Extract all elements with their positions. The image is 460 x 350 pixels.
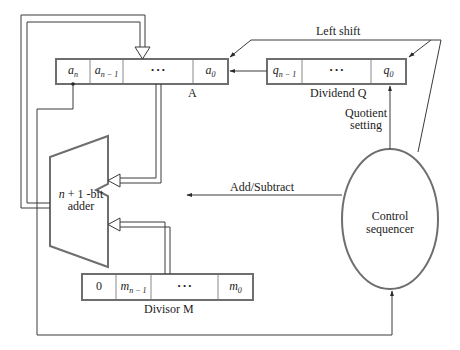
quotient-setting-label-line2: setting xyxy=(344,119,388,131)
a-to-adder-bus xyxy=(120,84,161,183)
cell-a-ellipsis: • • • xyxy=(123,66,193,75)
bus-arrow-into-adder-top xyxy=(108,174,120,187)
cell-sub: n − 1 xyxy=(129,286,146,295)
cell-var: m xyxy=(229,279,238,293)
cell-a-n: an xyxy=(56,64,90,79)
cell-var: • • • xyxy=(330,65,344,75)
cell-sub: 0 xyxy=(238,286,242,295)
cell-q-0: q0 xyxy=(371,64,406,79)
cell-sub: n − 1 xyxy=(279,70,296,79)
left-shift-arrow-q xyxy=(409,40,431,57)
control-label-line1: Control xyxy=(352,210,428,222)
register-m-label: Divisor M xyxy=(144,303,194,315)
cell-var: m xyxy=(120,279,129,293)
left-shift-label: Left shift xyxy=(316,25,360,37)
add-subtract-label: Add/Subtract xyxy=(230,181,294,193)
cell-m-n-1: mn − 1 xyxy=(116,280,151,295)
cell-m-0: m0 xyxy=(218,280,253,295)
cell-q-n-1: qn − 1 xyxy=(267,64,302,79)
cell-a-0: a0 xyxy=(193,64,228,79)
register-q-label: Dividend Q xyxy=(310,87,366,99)
bus-arrow-into-a xyxy=(135,47,150,59)
cell-var: 0 xyxy=(96,279,102,293)
cell-m-ellipsis: • • • xyxy=(151,282,218,291)
m-to-adder-bus xyxy=(120,222,170,274)
cell-sub: n − 1 xyxy=(101,70,118,79)
cell-sub: 0 xyxy=(390,70,394,79)
cell-sub: 0 xyxy=(212,70,216,79)
cell-var: • • • xyxy=(151,65,165,75)
register-a-label: A xyxy=(188,87,197,99)
diagram-canvas xyxy=(0,0,460,350)
cell-q-ellipsis: • • • xyxy=(302,66,371,75)
cell-m-zero: 0 xyxy=(82,280,116,292)
bus-arrow-into-adder-bottom xyxy=(108,218,120,231)
cell-a-n-1: an − 1 xyxy=(90,64,123,79)
left-shift-arrow-a xyxy=(230,40,251,57)
adder-label-line2: adder xyxy=(55,200,107,212)
cell-var: • • • xyxy=(178,281,192,291)
control-label-line2: sequencer xyxy=(352,223,428,235)
cell-sub: n xyxy=(74,70,78,79)
